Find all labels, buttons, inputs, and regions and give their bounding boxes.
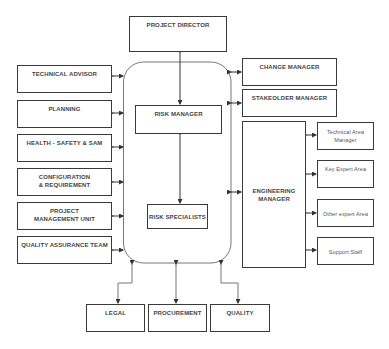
quality-box: QUALITY [210,304,270,332]
technical-advisor-box: TECHNICAL ADVISOR [17,65,112,93]
health-safety-box: HEALTH - SAFETY & SAM [17,134,112,162]
engineering-manager-box: ENGINEERING MANAGER [242,121,306,268]
stakeholder-manager-box: STAKEOLDER MANAGER [242,89,337,117]
project-director-box: PROJECT DIRECTOR [129,16,227,52]
legal-box: LEGAL [86,304,145,332]
procurement-box: PROCUREMENT [148,304,207,332]
risk-specialists-box: RISK SPECIALISTS [147,204,208,229]
other-expert-area-box: Other expert Area [317,199,374,227]
planning-box: PLANNING [17,100,112,128]
configuration-requirement-box: CONFIGURATION & REQUIREMENT [17,168,112,196]
support-staff-box: Support Staff [317,237,374,265]
project-management-unit-box: PROJECT MANAGEMENT UNIT [17,202,112,230]
change-manager-box: CHANGE MANAGER [242,58,337,86]
risk-container [124,62,232,263]
technical-area-manager-box: Technical Area Manager [317,122,374,150]
key-expert-area-box: Key Expert Area [317,160,374,188]
risk-manager-box: RISK MANAGER [135,105,222,134]
quality-assurance-team-box: QUALITY ASSURANCE TEAM [17,236,112,264]
